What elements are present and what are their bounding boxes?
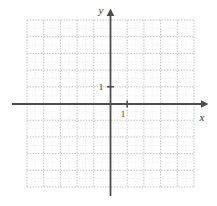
coordinate-grid-figure: 1 1 x y — [0, 0, 217, 206]
y-unit-tick-label: 1 — [99, 82, 104, 92]
coordinate-plane-svg: 1 1 x y — [0, 0, 217, 206]
y-axis-label: y — [98, 4, 104, 16]
x-axis-label: x — [199, 111, 205, 123]
x-unit-tick-label: 1 — [121, 109, 126, 119]
